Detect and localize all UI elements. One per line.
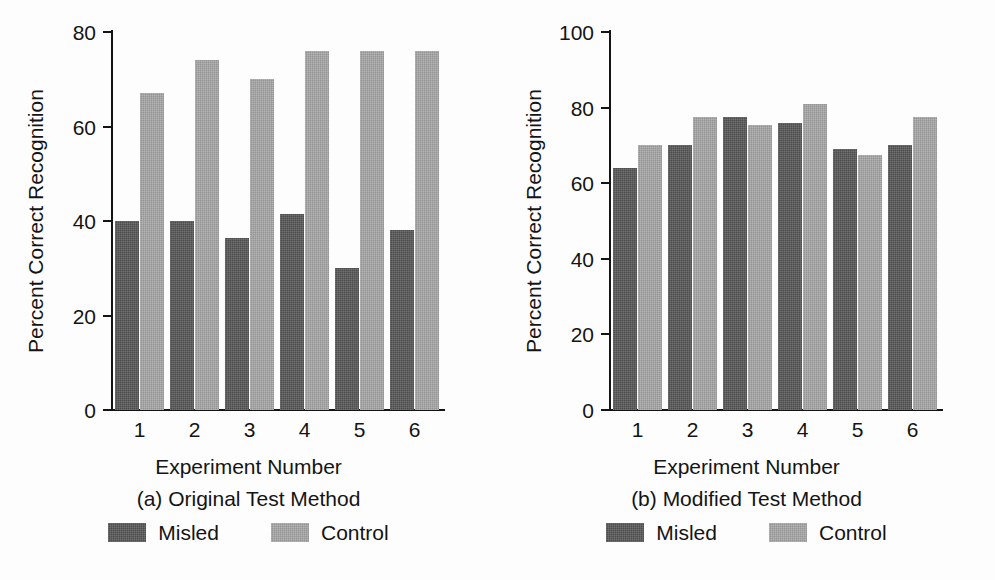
y-tick-mark-icon: 80 [601, 107, 610, 109]
y-tick-label: 0 [84, 400, 96, 421]
x-tick-label-a-5: 5 [335, 416, 385, 444]
panel-caption-a: (a) Original Test Method [0, 484, 497, 514]
legend-a: Misled Control [0, 522, 497, 543]
bar-group-a-exp4 [280, 32, 329, 410]
y-tick-label: 0 [582, 400, 594, 421]
bar-b-control-exp3[interactable] [748, 125, 772, 410]
x-tick-labels-b: 123456 [610, 416, 940, 446]
bar-a-control-exp4[interactable] [305, 51, 329, 410]
y-tick-label: 20 [73, 305, 96, 326]
y-tick-mark-icon: 60 [601, 182, 610, 184]
figure-root: Percent Correct Recognition 020406080 12… [0, 0, 995, 580]
legend-item-misled-a[interactable]: Misled [108, 522, 219, 543]
x-tick-label-b-6: 6 [888, 416, 938, 444]
legend-label-misled-a: Misled [158, 522, 219, 543]
y-axis-title-b: Percent Correct Recognition [520, 32, 548, 410]
y-tick-label: 100 [559, 22, 594, 43]
y-tick-label: 20 [571, 324, 594, 345]
bar-b-misled-exp4[interactable] [778, 123, 802, 410]
x-tick-label-b-4: 4 [778, 416, 828, 444]
x-tick-label-a-3: 3 [225, 416, 275, 444]
bar-a-misled-exp5[interactable] [335, 268, 359, 410]
y-tick-label: 60 [571, 173, 594, 194]
x-tick-label-b-2: 2 [668, 416, 718, 444]
y-axis-title-a: Percent Correct Recognition [22, 32, 50, 410]
x-tick-label-a-6: 6 [390, 416, 440, 444]
x-tick-label-b-1: 1 [613, 416, 663, 444]
plot-area-a: 020406080 [112, 32, 442, 410]
y-tick-mark-icon: 40 [103, 220, 112, 222]
bar-b-misled-exp6[interactable] [888, 145, 912, 410]
bar-a-control-exp3[interactable] [250, 79, 274, 410]
y-tick-mark-icon: 20 [103, 315, 112, 317]
x-tick-label-b-3: 3 [723, 416, 773, 444]
bar-b-control-exp5[interactable] [858, 155, 882, 410]
y-axis-title-label-b: Percent Correct Recognition [522, 89, 546, 353]
bar-group-b-exp3 [723, 32, 772, 410]
y-tick-mark-icon: 40 [601, 258, 610, 260]
panel-caption-b: (b) Modified Test Method [498, 484, 995, 514]
legend-label-control-a: Control [321, 522, 389, 543]
bar-a-misled-exp2[interactable] [170, 221, 194, 410]
bar-b-misled-exp5[interactable] [833, 149, 857, 410]
bar-group-b-exp1 [613, 32, 662, 410]
bar-group-a-exp5 [335, 32, 384, 410]
y-tick-mark-icon: 80 [103, 31, 112, 33]
bar-b-misled-exp1[interactable] [613, 168, 637, 410]
y-tick-label: 60 [73, 116, 96, 137]
legend-swatch-control-icon-b [769, 523, 807, 542]
bar-group-b-exp6 [888, 32, 937, 410]
y-axis-title-label-a: Percent Correct Recognition [24, 89, 48, 353]
bar-b-control-exp4[interactable] [803, 104, 827, 410]
bar-group-a-exp1 [115, 32, 164, 410]
bar-b-control-exp1[interactable] [638, 145, 662, 410]
bar-a-control-exp5[interactable] [360, 51, 384, 410]
legend-label-control-b: Control [819, 522, 887, 543]
y-tick-mark-icon: 60 [103, 126, 112, 128]
legend-swatch-misled-icon-a [108, 523, 146, 542]
bar-a-control-exp1[interactable] [140, 93, 164, 410]
legend-b: Misled Control [498, 522, 995, 543]
bar-a-control-exp2[interactable] [195, 60, 219, 410]
caption-block-b: Experiment Number (b) Modified Test Meth… [498, 452, 995, 514]
bar-group-a-exp3 [225, 32, 274, 410]
bar-group-a-exp6 [390, 32, 439, 410]
bar-group-b-exp5 [833, 32, 882, 410]
bar-group-b-exp2 [668, 32, 717, 410]
chart-panel-b: Percent Correct Recognition 020406080100… [498, 0, 995, 580]
chart-panel-a: Percent Correct Recognition 020406080 12… [0, 0, 497, 580]
x-tick-label-a-2: 2 [170, 416, 220, 444]
x-tick-label-a-4: 4 [280, 416, 330, 444]
legend-swatch-control-icon-a [271, 523, 309, 542]
bar-group-a-exp2 [170, 32, 219, 410]
bar-b-control-exp6[interactable] [913, 117, 937, 410]
y-tick-label: 40 [571, 248, 594, 269]
bar-a-control-exp6[interactable] [415, 51, 439, 410]
plot-area-b: 020406080100 [610, 32, 940, 410]
x-tick-label-b-5: 5 [833, 416, 883, 444]
bar-a-misled-exp1[interactable] [115, 221, 139, 410]
bar-b-control-exp2[interactable] [693, 117, 717, 410]
y-tick-mark-icon: 20 [601, 333, 610, 335]
bar-a-misled-exp3[interactable] [225, 238, 249, 410]
y-tick-mark-icon: 100 [601, 31, 610, 33]
legend-swatch-misled-icon-b [606, 523, 644, 542]
bar-a-misled-exp4[interactable] [280, 214, 304, 410]
x-tick-label-a-1: 1 [115, 416, 165, 444]
y-tick-label: 80 [571, 97, 594, 118]
bar-b-misled-exp2[interactable] [668, 145, 692, 410]
legend-item-control-a[interactable]: Control [271, 522, 389, 543]
y-tick-mark-icon: 0 [103, 409, 112, 411]
bar-group-b-exp4 [778, 32, 827, 410]
x-axis-title-b: Experiment Number [498, 452, 995, 482]
y-tick-label: 80 [73, 22, 96, 43]
bar-a-misled-exp6[interactable] [390, 230, 414, 410]
legend-label-misled-b: Misled [656, 522, 717, 543]
y-tick-mark-icon: 0 [601, 409, 610, 411]
x-axis-title-a: Experiment Number [0, 452, 497, 482]
caption-block-a: Experiment Number (a) Original Test Meth… [0, 452, 497, 514]
legend-item-misled-b[interactable]: Misled [606, 522, 717, 543]
bar-b-misled-exp3[interactable] [723, 117, 747, 410]
x-tick-labels-a: 123456 [112, 416, 442, 446]
legend-item-control-b[interactable]: Control [769, 522, 887, 543]
